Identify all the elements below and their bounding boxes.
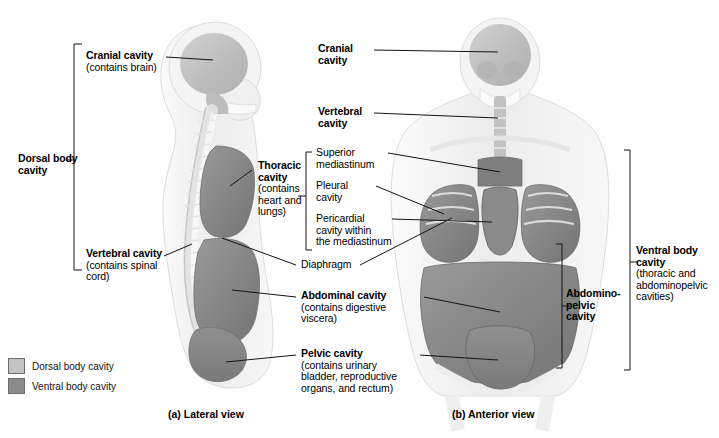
label-abdominopelvic-cavity: Abdomino- pelvic cavity bbox=[566, 288, 626, 323]
label-abdominal-cavity: Abdominal cavity (contains digestive vis… bbox=[301, 290, 423, 325]
abdominal-cavity-sub2: viscera) bbox=[301, 313, 423, 325]
vertebral-cavity-anterior-line1: Vertebral bbox=[318, 106, 378, 118]
ventral-body-cavity-line1: Ventral body bbox=[636, 245, 718, 257]
pleural-cavity-line1: Pleural bbox=[316, 180, 396, 192]
caption-lateral-view: (a) Lateral view bbox=[168, 408, 244, 420]
lateral-cranial-cavity bbox=[180, 33, 248, 95]
pericardial-cavity-line3: the mediastinum bbox=[316, 236, 412, 248]
anterior-pericardial-cavity bbox=[482, 187, 518, 255]
dorsal-body-cavity-line2: cavity bbox=[18, 165, 78, 177]
label-cranial-cavity-anterior: Cranial cavity bbox=[318, 43, 378, 66]
label-cranial-cavity-lateral: Cranial cavity (contains brain) bbox=[86, 50, 186, 73]
label-superior-mediastinum: Superior mediastinum bbox=[316, 147, 396, 170]
cranial-cavity-lateral-title: Cranial cavity bbox=[86, 50, 186, 62]
abdominal-cavity-title: Abdominal cavity bbox=[301, 290, 423, 302]
anterior-cranial-cavity bbox=[469, 24, 531, 86]
thoracic-cavity-line1: Thoracic bbox=[258, 160, 318, 172]
pelvic-cavity-sub3: organs, and rectum) bbox=[301, 383, 423, 395]
bracket-ventral-body-cavity bbox=[624, 150, 630, 370]
vertebral-cavity-lateral-sub2: cord) bbox=[86, 271, 186, 283]
dorsal-body-cavity-line1: Dorsal body bbox=[18, 153, 78, 165]
label-pleural-cavity: Pleural cavity bbox=[316, 180, 396, 203]
legend: Dorsal body cavity Ventral body cavity bbox=[8, 358, 116, 398]
legend-label-ventral: Ventral body cavity bbox=[32, 381, 116, 392]
superior-mediastinum-line2: mediastinum bbox=[316, 159, 396, 171]
diaphragm-text: Diaphragm bbox=[301, 259, 361, 271]
label-diaphragm: Diaphragm bbox=[301, 259, 361, 271]
legend-swatch-dorsal-icon bbox=[8, 358, 25, 374]
pericardial-cavity-line1: Pericardial bbox=[316, 213, 412, 225]
legend-label-dorsal: Dorsal body cavity bbox=[32, 361, 114, 372]
legend-item-ventral: Ventral body cavity bbox=[8, 378, 116, 394]
cranial-cavity-anterior-line1: Cranial bbox=[318, 43, 378, 55]
anterior-orbit-right bbox=[503, 61, 523, 79]
vertebral-cavity-lateral-title: Vertebral cavity bbox=[86, 248, 186, 260]
lateral-view-figure bbox=[161, 22, 273, 388]
thoracic-cavity-sub3: lungs) bbox=[258, 206, 318, 218]
anterior-view-figure bbox=[391, 18, 609, 430]
abdominopelvic-line1: Abdomino- bbox=[566, 288, 626, 300]
cranial-cavity-lateral-sub: (contains brain) bbox=[86, 62, 186, 74]
abdominopelvic-line3: cavity bbox=[566, 311, 626, 323]
caption-anterior-view: (b) Anterior view bbox=[452, 408, 534, 420]
label-ventral-body-cavity: Ventral body cavity (thoracic and abdomi… bbox=[636, 245, 718, 303]
label-pericardial-cavity: Pericardial cavity within the mediastinu… bbox=[316, 213, 412, 248]
label-pelvic-cavity: Pelvic cavity (contains urinary bladder,… bbox=[301, 348, 423, 394]
label-dorsal-body-cavity: Dorsal body cavity bbox=[18, 153, 78, 176]
legend-swatch-ventral-icon bbox=[8, 378, 25, 394]
cranial-cavity-anterior-line2: cavity bbox=[318, 55, 378, 67]
superior-mediastinum-line1: Superior bbox=[316, 147, 396, 159]
label-vertebral-cavity-anterior: Vertebral cavity bbox=[318, 106, 378, 129]
label-vertebral-cavity-lateral: Vertebral cavity (contains spinal cord) bbox=[86, 248, 186, 283]
pelvic-cavity-title: Pelvic cavity bbox=[301, 348, 423, 360]
label-thoracic-cavity: Thoracic cavity (contains heart and lung… bbox=[258, 160, 318, 218]
legend-item-dorsal: Dorsal body cavity bbox=[8, 358, 116, 374]
pleural-cavity-line2: cavity bbox=[316, 192, 396, 204]
ventral-body-cavity-sub3: cavities) bbox=[636, 291, 718, 303]
vertebral-cavity-anterior-line2: cavity bbox=[318, 118, 378, 130]
lateral-thoracic-cavity bbox=[200, 146, 255, 238]
anterior-orbit-left bbox=[477, 61, 497, 79]
figure-canvas: Dorsal body cavity Cranial cavity (conta… bbox=[0, 0, 719, 438]
